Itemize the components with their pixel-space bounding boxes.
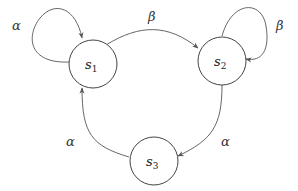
edge-label-s2-s2: β	[275, 18, 284, 33]
edge-label-s1-s1: α	[12, 18, 21, 33]
state-s1[interactable]: s1	[69, 40, 117, 88]
edge-s2-s3	[178, 85, 222, 156]
edge-s3-s1	[82, 88, 129, 157]
edge-label-s3-s1: α	[66, 134, 75, 149]
edge-label-s1-s2: β	[147, 9, 156, 24]
state-s2[interactable]: s2	[198, 37, 246, 85]
state-diagram: s1 s2 s3 α β β α α	[0, 0, 298, 191]
state-s3[interactable]: s3	[130, 137, 178, 185]
edge-s1-s2	[106, 30, 198, 48]
edge-label-s2-s3: α	[221, 134, 230, 149]
